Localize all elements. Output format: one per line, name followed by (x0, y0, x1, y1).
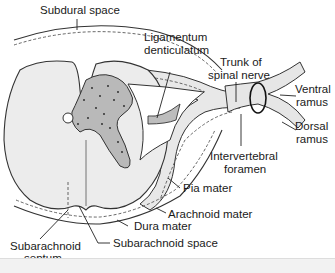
leader-dura (117, 220, 128, 226)
label-pia-mater: Pia mater (183, 182, 232, 194)
label-ventral-line2: ramus (296, 96, 328, 108)
leader-arachnoid (156, 208, 166, 213)
label-ligamentum-line2: denticulatum (144, 44, 209, 56)
label-trunk-line1: Trunk of (220, 56, 263, 68)
label-dura-mater: Dura mater (134, 220, 192, 232)
label-trunk-line2: spinal nerve (208, 69, 270, 81)
label-dorsal-line2: ramus (296, 133, 328, 145)
label-foramen-line1: Intervertebral (210, 150, 278, 162)
leader-septum (40, 210, 68, 239)
label-foramen-line2: foramen (224, 163, 266, 175)
central-canal (63, 113, 73, 123)
leader-ventral (280, 95, 296, 96)
label-subarachnoid-space: Subarachnoid space (113, 237, 218, 249)
label-subdural-space: Subdural space (40, 4, 120, 16)
label-ventral-line1: Ventral (295, 83, 331, 95)
label-ligamentum-line1: Ligamentum (144, 31, 207, 43)
cropped-caption-strip (0, 258, 335, 273)
label-dorsal-line1: Dorsal (295, 120, 328, 132)
spinal-meninges-diagram: Subdural space Ligamentum denticulatum T… (0, 0, 335, 258)
label-septum-line1: Subarachnoid (10, 240, 81, 252)
label-arachnoid-mater: Arachnoid mater (168, 208, 253, 220)
